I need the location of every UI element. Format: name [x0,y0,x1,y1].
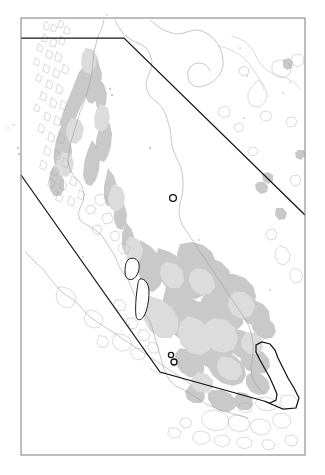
map-canvas: Malay Peninsula regional map Black and w… [0,0,325,475]
marker-south-lower [171,359,177,365]
marker-north [170,195,177,202]
marker-south-upper [168,352,173,357]
map-graphic [0,0,325,475]
